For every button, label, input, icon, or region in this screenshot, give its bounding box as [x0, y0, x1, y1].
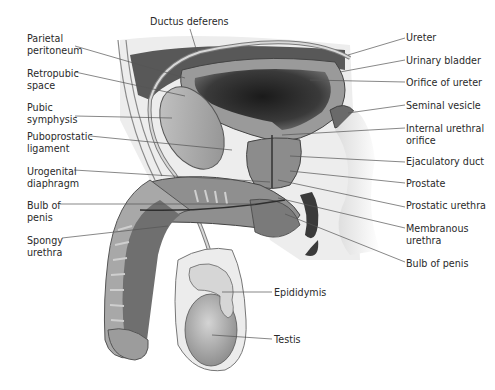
label-prostatic-urethra: Prostatic urethra [406, 200, 486, 212]
label-line: Spongy [27, 235, 63, 247]
label-bulb-of-penis-right: Bulb of penis [406, 258, 469, 270]
label-line: Ejaculatory duct [406, 156, 484, 168]
label-line: Seminal vesicle [406, 100, 481, 112]
label-membranous-urethra: Membranous urethra [406, 223, 468, 247]
label-line: Bulb of [27, 200, 61, 212]
label-line: peritoneum [27, 45, 83, 57]
label-line: Pubic [27, 102, 78, 114]
label-line: symphysis [27, 114, 78, 126]
label-prostate: Prostate [406, 178, 446, 190]
label-internal-urethral-orifice: Internal urethral orifice [406, 123, 484, 147]
label-orifice-of-ureter: Orifice of ureter [406, 77, 482, 89]
label-line: Membranous [406, 223, 468, 235]
label-epididymis: Epididymis [274, 287, 326, 299]
label-line: penis [27, 212, 61, 224]
label-retropubic-space: Retropubic space [27, 68, 79, 92]
label-line: Orifice of ureter [406, 77, 482, 89]
label-line: Testis [274, 334, 301, 346]
label-spongy-urethra: Spongy urethra [27, 235, 63, 259]
label-line: Bulb of penis [406, 258, 469, 270]
label-puboprostatic-ligament: Puboprostatic ligament [27, 131, 93, 155]
label-ejaculatory-duct: Ejaculatory duct [406, 156, 484, 168]
anatomy-diagram: Parietal peritoneum Retropubic space Pub… [0, 0, 495, 390]
label-urinary-bladder: Urinary bladder [406, 55, 481, 67]
label-line: diaphragm [27, 178, 79, 190]
label-line: Retropubic [27, 68, 79, 80]
label-line: Prostatic urethra [406, 200, 486, 212]
label-ureter: Ureter [406, 32, 436, 44]
label-line: Internal urethral [406, 123, 484, 135]
label-line: Ureter [406, 32, 436, 44]
scrotum-shape [175, 248, 246, 370]
label-bulb-of-penis-left: Bulb of penis [27, 200, 61, 224]
label-ductus-deferens: Ductus deferens [150, 16, 229, 28]
label-line: orifice [406, 135, 484, 147]
label-testis: Testis [274, 334, 301, 346]
label-line: Prostate [406, 178, 446, 190]
label-line: Epididymis [274, 287, 326, 299]
label-seminal-vesicle: Seminal vesicle [406, 100, 481, 112]
label-line: Ductus deferens [150, 16, 229, 28]
label-pubic-symphysis: Pubic symphysis [27, 102, 78, 126]
label-parietal-peritoneum: Parietal peritoneum [27, 33, 83, 57]
label-line: urethra [406, 235, 468, 247]
label-line: Urogenital [27, 166, 79, 178]
label-line: Puboprostatic [27, 131, 93, 143]
prostate-shape [247, 135, 302, 189]
label-line: Parietal [27, 33, 83, 45]
label-line: space [27, 80, 79, 92]
label-line: urethra [27, 247, 63, 259]
label-urogenital-diaphragm: Urogenital diaphragm [27, 166, 79, 190]
label-line: ligament [27, 143, 93, 155]
label-line: Urinary bladder [406, 55, 481, 67]
